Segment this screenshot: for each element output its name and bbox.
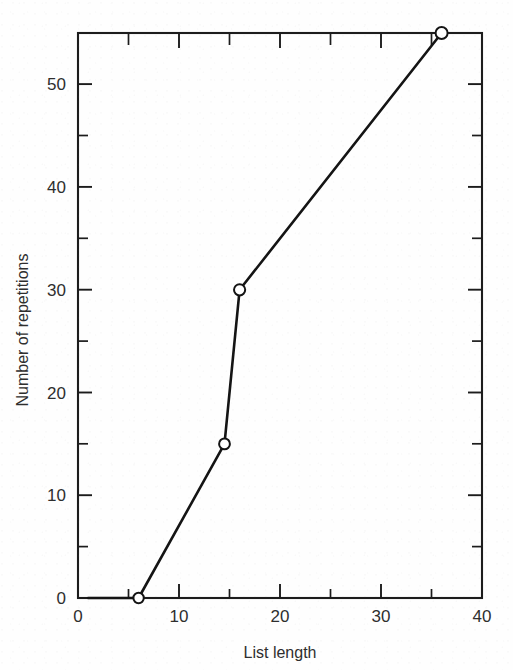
x-tick-label-40: 40: [473, 607, 492, 626]
x-tick-label-30: 30: [372, 607, 391, 626]
series-line-repetitions: [88, 33, 442, 598]
y-tick-label-40: 40: [47, 178, 66, 197]
y-tick-label-50: 50: [47, 75, 66, 94]
x-tick-label-20: 20: [271, 607, 290, 626]
x-axis-title: List length: [244, 644, 317, 661]
figure-canvas: 0 10 20 30 40 0 10 20 30 40 50 List leng…: [0, 0, 513, 670]
data-point-marker[interactable]: [219, 439, 230, 450]
y-axis-ticks-left: [78, 84, 92, 598]
line-chart: 0 10 20 30 40 0 10 20 30 40 50 List leng…: [0, 0, 513, 670]
y-tick-label-30: 30: [47, 281, 66, 300]
y-axis-ticks-right: [468, 84, 482, 546]
y-tick-label-0: 0: [57, 589, 66, 608]
x-tick-label-0: 0: [73, 607, 82, 626]
y-axis-title: Number of repetitions: [14, 254, 31, 407]
y-tick-label-10: 10: [47, 486, 66, 505]
data-point-marker[interactable]: [133, 593, 143, 603]
plot-frame: [78, 33, 482, 598]
y-tick-label-20: 20: [47, 384, 66, 403]
data-point-marker[interactable]: [436, 27, 448, 39]
x-tick-label-10: 10: [170, 607, 189, 626]
data-point-marker[interactable]: [234, 284, 245, 295]
x-axis-ticks-top: [129, 33, 432, 48]
